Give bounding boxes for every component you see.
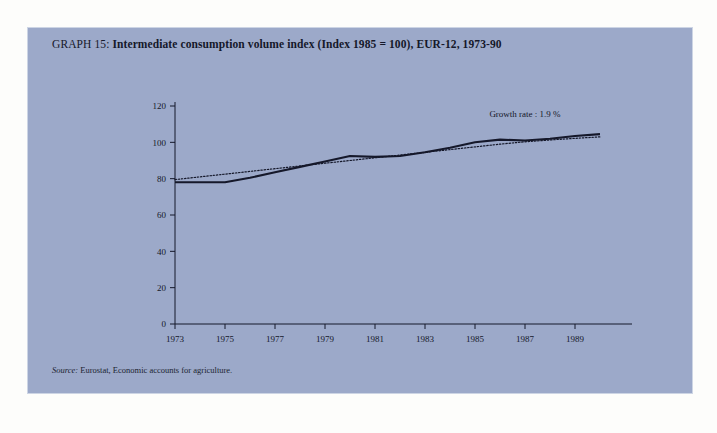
y-tick-label: 120: [153, 101, 167, 111]
line-chart-svg: 0204060801001201973197519771979198119831…: [28, 28, 692, 393]
source-text: Eurostat, Economic accounts for agricult…: [78, 365, 232, 375]
x-tick-label: 1973: [166, 334, 185, 344]
x-tick-label: 1987: [516, 334, 535, 344]
trend-line-dotted: [175, 137, 600, 180]
x-tick-label: 1977: [266, 334, 285, 344]
x-tick-label: 1979: [316, 334, 335, 344]
x-tick-label: 1975: [216, 334, 235, 344]
source-label: Source:: [52, 365, 78, 375]
y-tick-label: 100: [153, 138, 167, 148]
y-tick-label: 0: [162, 319, 167, 329]
figure-root: GRAPH 15: Intermediate consumption volum…: [0, 0, 717, 433]
x-tick-label: 1983: [416, 334, 435, 344]
y-tick-label: 20: [157, 283, 167, 293]
growth-rate-label: Growth rate : 1.9 %: [489, 109, 561, 119]
chart-panel: GRAPH 15: Intermediate consumption volum…: [28, 28, 692, 393]
x-tick-label: 1985: [466, 334, 485, 344]
x-tick-label: 1981: [366, 334, 384, 344]
y-tick-label: 40: [157, 247, 167, 257]
x-tick-label: 1989: [566, 334, 585, 344]
y-tick-label: 60: [157, 210, 167, 220]
source-note: Source: Eurostat, Economic accounts for …: [52, 365, 232, 375]
plot-area: 0204060801001201973197519771979198119831…: [28, 28, 692, 393]
y-tick-label: 80: [157, 174, 167, 184]
